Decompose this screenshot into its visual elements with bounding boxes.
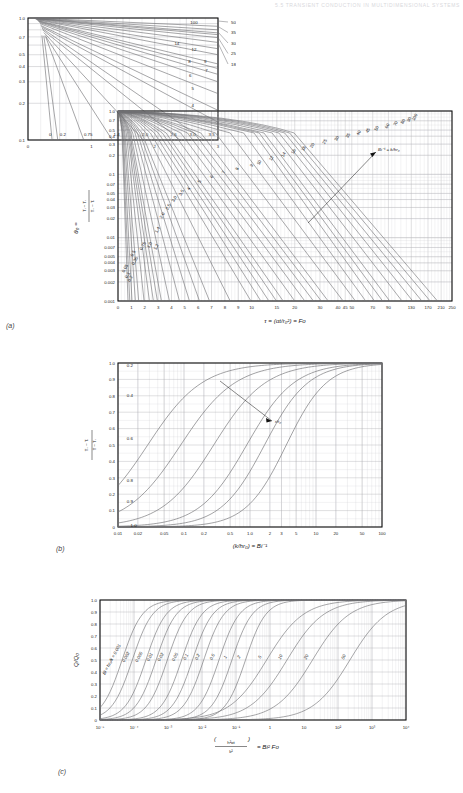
axis-text: 0.8 [109,394,116,399]
axis-text: 5 [184,305,187,310]
curve-label: 0.5 [209,653,217,661]
curve-label: 8 [188,59,191,64]
axis-text: 0.5 [109,128,116,133]
axis-text: 0.6 [91,646,98,651]
axis-text: 0.04 [107,197,116,202]
curve-label: 30 [231,41,236,46]
axis-text: 0.2 [109,153,116,158]
panel-a-label: (a) [6,322,15,329]
curve-label: 14 [280,151,287,158]
axis-text: 0.003 [104,268,115,273]
axis-text: 0 [27,144,30,149]
axis-text: 10² [335,725,342,730]
axis-text: 170 [424,305,432,310]
panel-c-curve [100,605,406,720]
panel-a-curve [118,111,389,301]
axis-text: 0 [95,718,98,723]
leader-line [218,21,228,22]
axis-text: 70 [370,305,375,310]
curve-label: 35 [231,30,236,35]
axis-text: 0.07 [107,182,116,187]
axis-text: 0.5 [19,52,26,57]
curve-label: 50 [340,653,347,660]
axis-text: 9 [237,305,240,310]
curve-label: 2.5 [164,202,172,210]
axis-text: 0.3 [91,682,98,687]
curve-label: 35 [345,132,352,139]
annotation-r-over-r0: r/r₀ [275,419,281,424]
axis-text: 6 [197,305,200,310]
axis-text: 5 [295,531,298,536]
x-axis-title: τ = (αt/r₀²) = Fo [264,317,306,324]
curve-label: 1 [222,654,228,659]
curve-label: 10 [256,159,263,166]
axis-text: 1.0 [109,361,116,366]
axis-text: 3 [280,531,283,536]
axis-text: 20 [333,531,338,536]
axis-text: 2 [269,531,272,536]
curve-label: 1.0 [131,523,138,528]
axis-text: 0 [117,305,120,310]
panel-c-curve [100,600,406,708]
y-axis-title: T₀ − TᵢTᵢ − Tᵢθ₀ = [72,190,95,234]
curve-label: 5 [257,654,263,659]
axis-text: 0.5 [91,658,98,663]
axis-text: 0.5 [109,443,116,448]
axis-text: 1 [130,305,133,310]
curve-label: 0.01 [145,651,154,661]
curve-label: 50 [373,124,380,131]
x-axis-title: h²αtk²()= Bi² Fo [214,735,279,754]
axis-text: 250 [448,305,456,310]
panel-b-label: (b) [56,545,65,552]
curve-label: 0.8 [127,478,134,483]
axis-text: 1.0 [247,531,254,536]
chart-panel-c-heat-loss: 00.10.20.30.40.50.60.70.80.91.010⁻⁵10⁻⁴1… [58,592,428,772]
panel-c-label: (c) [58,768,66,775]
axis-text: 0.8 [91,622,98,627]
axis-text: = Bi² Fo [257,743,279,750]
panel-a-curve [118,111,422,301]
axis-text: 20 [292,305,297,310]
curve-label: 14 [174,41,179,46]
curve-label: 6 [189,73,192,78]
panel-a-curve [118,111,230,301]
axis-text: 0.1 [181,531,188,536]
curve-label: 5 [197,179,203,184]
curve-label: 30 [333,135,340,142]
chart-panel-b-temperature-distribution: 00.10.20.30.40.50.60.70.80.91.00.010.020… [70,355,400,555]
curve-label: 16 [290,148,297,155]
figure-heisler-sphere-charts: 5.5 TRANSIENT CONDUCTION IN MULTIDIMENSI… [0,0,463,793]
axis-text: ( [214,735,217,742]
panel-a-curve [118,111,343,301]
axis-text: 10³ [369,725,376,730]
axis-text: 10⁻³ [164,725,173,730]
axis-text: 0.001 [104,299,115,304]
axis-text: 0.4 [19,64,26,69]
x-axis-title: (k/hr₀) = Bi⁻¹ [233,542,268,549]
curve-label: 50 [231,20,236,25]
axis-text: 0.1 [19,138,26,143]
axis-text: 30 [318,305,323,310]
panel-a-curve [118,111,402,301]
axis-text: 0.9 [91,610,98,615]
axis-text: 50 [349,305,354,310]
y-axis-title: Q/Q₀ [72,653,79,667]
axis-text: 0.02 [134,531,143,536]
axis-text: 0.007 [104,245,115,250]
curve-label: 1.2 [152,242,160,250]
axis-text: 0.9 [109,377,116,382]
curve-label: Bi = hr₀/k = 0.001 [101,643,122,676]
axis-text: T₀ − Tᵢ [84,438,89,451]
leader-line [218,43,228,64]
axis-text: k² [229,749,233,754]
curve-label: 25 [231,51,236,56]
axis-text: 45 [343,305,348,310]
curve-label: 0.2 [127,363,134,368]
axis-text: 0.3 [19,79,26,84]
axis-text: T − Tᵢ [92,439,97,450]
axis-text: 0.01 [114,531,123,536]
axis-text: T₀ − Tᵢ [90,199,95,212]
axis-text: 10 [249,305,254,310]
axis-text: 0.5 [227,531,234,536]
axis-text: ) [247,735,250,742]
